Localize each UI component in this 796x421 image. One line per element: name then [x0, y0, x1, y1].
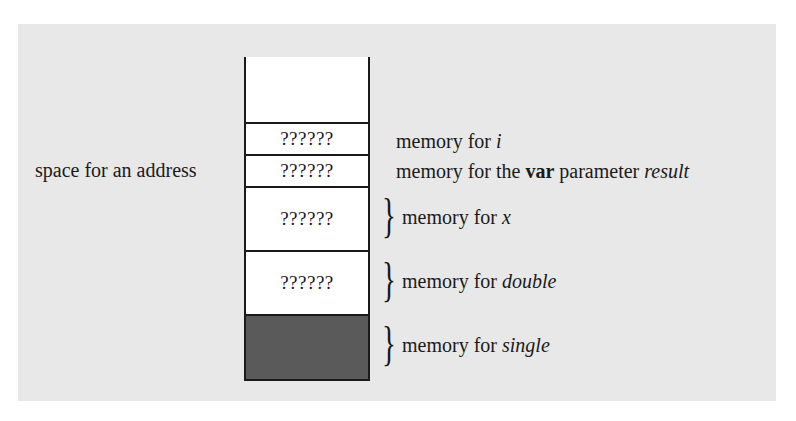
cell-x: ?????? — [246, 188, 368, 250]
label-double: memory for double — [402, 271, 556, 291]
brace-double: } — [382, 256, 396, 304]
memory-stack: ?????? ?????? ?????? ?????? — [244, 57, 370, 381]
label-i: memory for i — [396, 131, 502, 151]
brace-x: } — [382, 192, 396, 240]
cell-single — [246, 316, 368, 379]
divider — [244, 379, 370, 381]
label-x: memory for x — [402, 207, 511, 227]
cell-top-empty — [246, 57, 368, 123]
label-single: memory for single — [402, 335, 550, 355]
stack-left-edge — [244, 57, 246, 381]
cell-i: ?????? — [246, 124, 368, 154]
stack-right-edge — [368, 57, 370, 381]
label-result: memory for the var parameter result — [396, 161, 689, 181]
cell-result: ?????? — [246, 156, 368, 186]
cell-double: ?????? — [246, 252, 368, 314]
address-label: space for an address — [35, 160, 197, 180]
brace-single: } — [382, 320, 396, 368]
diagram-panel — [18, 24, 776, 401]
